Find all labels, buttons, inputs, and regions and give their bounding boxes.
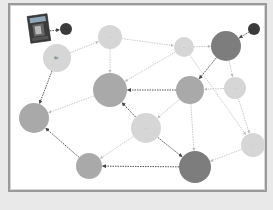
edge-label: ...	[191, 124, 194, 127]
edge-label: ...	[217, 92, 220, 95]
node-label: ...	[109, 36, 112, 39]
edge-label: ...	[109, 58, 112, 61]
edge-label: ...	[147, 39, 150, 42]
edge-end-E	[239, 32, 249, 38]
node-label: ...	[33, 117, 36, 120]
node-label: ...	[194, 166, 197, 169]
node-I[interactable]: ...	[131, 113, 161, 143]
edge-label: ...	[151, 87, 154, 90]
edge-label: ...	[83, 44, 86, 47]
edge-label: ...	[140, 163, 143, 166]
edge-label: ...	[149, 64, 152, 67]
node-label: ...	[145, 127, 148, 130]
node-H[interactable]: ...	[19, 103, 49, 133]
node-J[interactable]: ...	[76, 153, 102, 179]
node-label: ...	[189, 89, 192, 92]
edge-label: ...	[225, 152, 228, 155]
edge-label: ...	[116, 144, 119, 147]
node-label: ...	[234, 87, 237, 90]
edge-label: ...	[167, 106, 170, 109]
node-label: 用户...	[54, 56, 61, 60]
node-label: ...	[225, 45, 228, 48]
concept-map-canvas: ........................................…	[0, 0, 273, 210]
node-C[interactable]: ...	[93, 73, 127, 107]
node-label: ...	[252, 144, 255, 147]
node-label: ...	[109, 89, 112, 92]
edge-book-start	[50, 30, 60, 31]
node-start[interactable]: 入口	[60, 23, 72, 35]
node-label: ...	[88, 165, 91, 168]
node-E[interactable]: ...	[211, 31, 241, 61]
node-B[interactable]: ...	[98, 25, 122, 49]
edge-label: ...	[169, 144, 172, 147]
nodes-layer: 入口用户...............出口...................…	[19, 23, 265, 183]
edge-label: ...	[128, 107, 131, 110]
node-K[interactable]: ...	[179, 151, 211, 183]
edge-label: ...	[201, 44, 204, 47]
book-cover-image	[27, 14, 51, 44]
node-D[interactable]: ...	[174, 37, 194, 57]
node-A[interactable]: 用户...	[43, 44, 71, 72]
edge-label: ...	[70, 101, 73, 104]
node-G[interactable]: ...	[224, 77, 246, 99]
node-label: ...	[183, 46, 186, 49]
node-end[interactable]: 出口	[248, 23, 260, 35]
edge-label: ...	[230, 66, 233, 69]
edge-label: ...	[61, 140, 64, 143]
node-L[interactable]: ...	[241, 133, 265, 157]
edge-label: ...	[45, 84, 48, 87]
edge-label: ...	[243, 113, 246, 116]
node-F[interactable]: ...	[176, 76, 204, 104]
edge-label: ...	[207, 65, 210, 68]
